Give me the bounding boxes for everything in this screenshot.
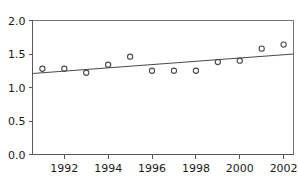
x-tick-label: 1996 [138, 162, 166, 175]
scatter-plot: 0.00.51.01.52.0 199219941996199820002002 [0, 0, 299, 189]
x-tick-label: 2002 [270, 162, 298, 175]
x-tick-label: 1994 [94, 162, 122, 175]
y-tick-label: 1.0 [8, 82, 26, 95]
y-tick-label: 2.0 [8, 15, 26, 28]
y-tick-label: 0.5 [8, 115, 26, 128]
y-tick-label: 0.0 [8, 149, 26, 162]
y-tick-label: 1.5 [8, 48, 26, 61]
x-tick-label: 2000 [226, 162, 254, 175]
x-tick-label: 1998 [182, 162, 210, 175]
x-tick-label: 1992 [50, 162, 78, 175]
chart-container: 0.00.51.01.52.0 199219941996199820002002 [0, 0, 299, 189]
